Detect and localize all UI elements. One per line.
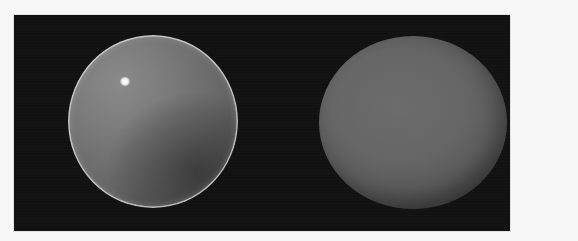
render-panel xyxy=(14,15,510,231)
glossy-sphere xyxy=(68,35,238,208)
matte-sphere xyxy=(319,36,507,209)
specular-highlight xyxy=(120,77,130,86)
